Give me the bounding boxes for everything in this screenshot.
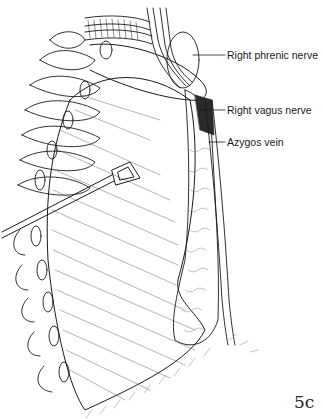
lung-hatching — [52, 95, 195, 400]
label-right-vagus-nerve: Right vagus nerve — [227, 104, 312, 116]
vertebrae — [14, 41, 112, 392]
label-right-phrenic-nerve: Right phrenic nerve — [227, 49, 318, 61]
ribs — [18, 32, 100, 195]
anatomical-illustration — [0, 0, 323, 419]
label-azygos-vein: Azygos vein — [227, 136, 284, 148]
phrenic-nerve-oval — [167, 32, 199, 88]
figure-number: 5c — [294, 392, 314, 412]
vagus-dark-area — [195, 95, 214, 135]
great-vessels — [85, 8, 192, 88]
retractor — [2, 162, 140, 238]
diaphragm-fringe — [86, 334, 258, 418]
